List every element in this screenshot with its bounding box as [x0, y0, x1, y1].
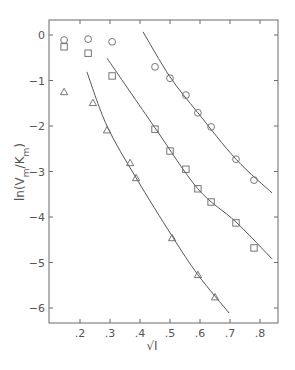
y-tick-label: −1: [29, 75, 45, 88]
y-tick-label: 0: [38, 29, 45, 42]
circles-fit-curve: [143, 32, 272, 193]
plot-border: [49, 20, 278, 323]
square-marker: [61, 44, 67, 50]
plot-frame: [49, 20, 278, 323]
x-tick-label: .5: [165, 327, 176, 340]
y-tick-label: −2: [29, 120, 45, 133]
x-tick-label: .2: [75, 327, 86, 340]
circle-marker: [251, 177, 258, 184]
square-marker: [109, 73, 115, 79]
x-axis-label: √I: [146, 339, 157, 353]
fit-curves: [87, 32, 272, 313]
y-tick-label: −3: [29, 166, 45, 179]
x-tick-label: .8: [255, 327, 266, 340]
square-marker: [251, 245, 257, 251]
circle-marker: [61, 37, 68, 44]
y-axis-ticks: 0−1−2−3−4−5−6: [29, 29, 278, 315]
y-tick-label: −5: [29, 257, 45, 270]
y-tick-label: −6: [29, 302, 45, 315]
square-marker: [233, 220, 239, 226]
circle-marker: [85, 36, 92, 43]
circle-marker: [152, 63, 159, 70]
square-marker: [85, 50, 91, 56]
data-markers: [61, 36, 258, 300]
x-tick-label: .6: [195, 327, 206, 340]
circle-marker: [167, 75, 174, 82]
x-tick-label: .7: [225, 327, 236, 340]
triangle-marker: [61, 88, 68, 94]
y-tick-label: −4: [29, 211, 45, 224]
triangle-marker: [89, 99, 96, 105]
chart: .2.3.4.5.6.7.8 0−1−2−3−4−5−6 √I ln(Vm/Km…: [0, 0, 295, 370]
triangle-marker: [127, 159, 134, 165]
triangles-fit-curve: [87, 72, 229, 313]
x-axis-ticks: .2.3.4.5.6.7.8: [75, 20, 266, 340]
x-tick-label: .3: [105, 327, 116, 340]
y-axis-label: ln(Vm/Km): [13, 143, 31, 201]
circle-marker: [109, 38, 116, 45]
squares-fit-curve: [107, 58, 272, 259]
x-tick-label: .4: [135, 327, 146, 340]
